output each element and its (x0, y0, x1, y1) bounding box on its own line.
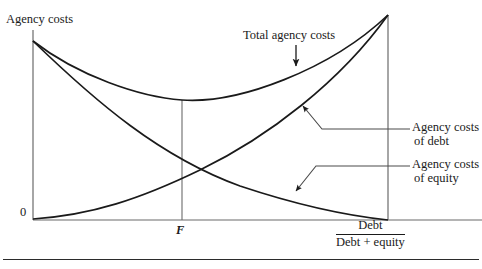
x-axis-title-denominator: Debt + equity (336, 234, 405, 250)
page-footer-rule (3, 259, 479, 260)
agency-costs-of-equity-label: Agency costs of equity (412, 158, 479, 185)
agency-costs-of-debt-curve (33, 15, 388, 219)
agency-costs-of-equity-leader (296, 166, 410, 191)
origin-tick-label: 0 (20, 206, 26, 220)
optimum-tick-label: F (176, 224, 184, 238)
agency-costs-plot (0, 0, 482, 269)
agency-costs-figure: Agency costs 0 F Total agency costs Agen… (0, 0, 482, 269)
x-axis-title-numerator: Debt (336, 219, 405, 234)
agency-costs-of-equity-label-line1: Agency costs (412, 157, 479, 171)
agency-costs-of-debt-label-line2: of debt (412, 135, 479, 149)
agency-costs-of-debt-leader (303, 106, 410, 129)
total-agency-costs-label: Total agency costs (243, 29, 335, 43)
x-axis-title: Debt Debt + equity (336, 219, 405, 249)
agency-costs-of-debt-label-line1: Agency costs (412, 120, 479, 134)
y-axis-title: Agency costs (6, 13, 73, 27)
agency-costs-of-debt-label: Agency costs of debt (412, 121, 479, 148)
agency-costs-of-equity-curve (33, 41, 388, 220)
agency-costs-of-equity-label-line2: of equity (412, 172, 479, 186)
